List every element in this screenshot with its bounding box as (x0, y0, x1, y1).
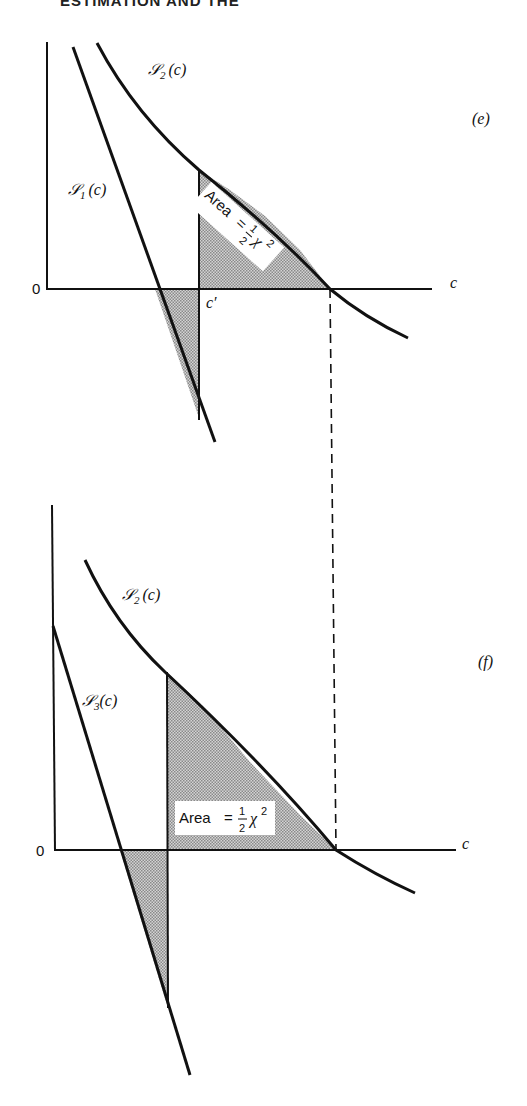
curve-s2-e (97, 43, 408, 338)
panel-label-f: (f) (478, 653, 493, 671)
svg-text:2: 2 (261, 805, 267, 817)
diagram-canvas: Area = 1 2 χ 2 𝒮2(c) 𝒮1(c) c′ 0 c (e) (0, 0, 527, 1106)
label-s2-f: 𝒮2(c) (122, 586, 160, 606)
panel-f: Area = 1 2 χ 2 𝒮2(c) 𝒮3(c) 0 c (f) (36, 505, 493, 1075)
svg-text:=: = (224, 809, 233, 826)
svg-text:χ: χ (248, 810, 258, 828)
svg-text:1: 1 (239, 805, 245, 817)
shaded-area-lower-e (155, 289, 199, 418)
origin-label-f: 0 (36, 842, 44, 859)
label-s2-e: 𝒮2(c) (148, 61, 186, 81)
svg-text:2: 2 (239, 822, 245, 834)
label-s1: 𝒮1(c) (68, 181, 106, 201)
panel-label-e: (e) (472, 110, 490, 128)
panel-e: Area = 1 2 χ 2 𝒮2(c) 𝒮1(c) c′ 0 c (e) (32, 42, 490, 442)
y-axis-f (52, 505, 55, 851)
svg-text:Area: Area (179, 809, 211, 826)
origin-label-e: 0 (32, 280, 40, 297)
vertical-marker-f (167, 672, 168, 1008)
label-s3: 𝒮3(c) (82, 692, 117, 712)
dashed-connector (330, 289, 336, 850)
label-c-prime: c′ (206, 294, 217, 311)
x-axis-label-e: c (450, 274, 457, 291)
curve-s1 (73, 47, 215, 442)
area-label-f: Area = 1 2 χ 2 (175, 801, 275, 835)
x-axis-label-f: c (462, 835, 469, 852)
